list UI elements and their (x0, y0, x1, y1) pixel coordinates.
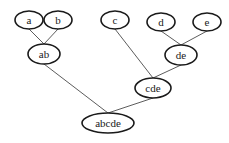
nodes: abcdeabdecdeabcde (15, 11, 221, 133)
node-label: a (27, 14, 32, 26)
node-e: e (193, 13, 221, 31)
edge-de-cde (153, 65, 181, 78)
node-label: abcde (95, 117, 121, 129)
edge-b-ab (44, 29, 58, 44)
edge-a-ab (29, 29, 44, 44)
edge-ab-abcde (44, 64, 108, 113)
node-a: a (15, 11, 43, 29)
node-label: de (176, 49, 187, 61)
node-label: d (158, 16, 164, 28)
node-d: d (147, 13, 175, 31)
node-ab: ab (28, 44, 60, 64)
node-cde: cde (135, 78, 171, 98)
node-de: de (165, 45, 197, 65)
tree-diagram: abcdeabdecdeabcde (0, 0, 229, 143)
node-label: e (205, 16, 210, 28)
edge-c-cde (115, 29, 153, 78)
edges (29, 29, 207, 113)
node-label: cde (145, 82, 160, 94)
edge-d-de (161, 31, 181, 45)
node-label: b (55, 14, 61, 26)
node-label: c (113, 14, 118, 26)
node-label: ab (39, 48, 50, 60)
node-b: b (44, 11, 72, 29)
node-c: c (101, 11, 129, 29)
node-abcde: abcde (82, 113, 134, 133)
edge-e-de (181, 31, 207, 45)
edge-cde-abcde (108, 98, 153, 113)
